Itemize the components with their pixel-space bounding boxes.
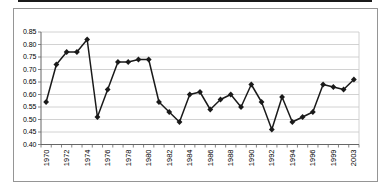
x-axis-tick-label: 1999 xyxy=(329,150,338,167)
x-axis-tick-label: 1972 xyxy=(62,150,71,167)
x-axis-tick-label: 2003 xyxy=(349,150,358,167)
y-axis-tick-label: 0.45 xyxy=(23,128,37,135)
x-axis-tick-label: 1974 xyxy=(83,150,92,167)
y-axis-tick-label: 0.40 xyxy=(23,141,37,148)
y-axis-tick-label: 0.60 xyxy=(23,91,37,98)
x-axis-tick-label: 1990 xyxy=(247,150,256,167)
y-axis-tick-label: 0.70 xyxy=(23,66,37,73)
x-axis-tick-label: 1984 xyxy=(185,150,194,167)
x-axis-tick-label: 1988 xyxy=(226,150,235,167)
x-axis-tick-label: 1992 xyxy=(267,150,276,167)
y-axis-tick-label: 0.75 xyxy=(23,53,37,60)
y-axis-tick-label: 0.85 xyxy=(23,28,37,35)
line-chart-svg: 0.850.800.750.700.650.600.550.500.450.40… xyxy=(0,0,391,190)
y-axis-tick-label: 0.55 xyxy=(23,103,37,110)
x-axis-tick-label: 1986 xyxy=(206,150,215,167)
chart-screenshot: 0.850.800.750.700.650.600.550.500.450.40… xyxy=(0,0,391,190)
x-axis-tick-label: 1978 xyxy=(124,150,133,167)
x-axis-tick-label: 1994 xyxy=(288,150,297,167)
y-axis-tick-label: 0.50 xyxy=(23,116,37,123)
x-axis-tick-label: 1982 xyxy=(165,150,174,167)
x-axis-tick-label: 1970 xyxy=(42,150,51,167)
x-axis-tick-label: 1996 xyxy=(308,150,317,167)
y-axis-tick-label: 0.65 xyxy=(23,78,37,85)
x-axis-tick-label: 1976 xyxy=(103,150,112,167)
x-axis-tick-label: 1980 xyxy=(144,150,153,167)
y-axis-tick-label: 0.80 xyxy=(23,41,37,48)
